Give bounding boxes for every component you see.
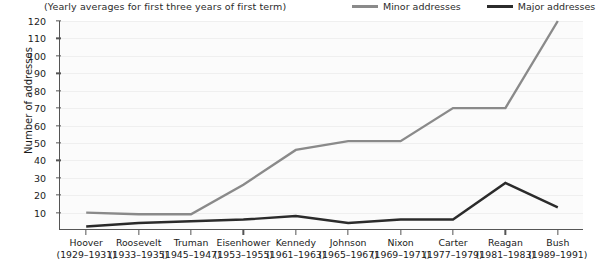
x-tick-mark	[86, 230, 87, 235]
x-tick-mark	[400, 230, 401, 235]
series-layer	[60, 21, 584, 230]
plot-area: 102030405060708090100110120 Hoover(1929–…	[59, 21, 583, 230]
y-tick-label: 110	[18, 33, 46, 44]
x-tick-name: Bush	[546, 237, 569, 248]
y-tick-label: 120	[18, 16, 46, 27]
x-tick-label-bush: Bush(1989–1991)	[515, 237, 600, 260]
x-tick-mark	[348, 230, 349, 235]
y-tick-label: 20	[18, 190, 46, 201]
y-tick-label: 10	[18, 207, 46, 218]
legend-item-minor-addresses[interactable]: Minor addresses	[352, 1, 461, 12]
x-tick-years: (1989–1991)	[515, 249, 600, 261]
legend-swatch-minor-icon	[352, 5, 378, 8]
y-tick-label: 50	[18, 137, 46, 148]
chart-legend: Minor addresses Major addresses	[352, 1, 595, 12]
y-tick-label: 90	[18, 68, 46, 79]
x-tick-mark	[505, 230, 506, 235]
x-tick-mark	[243, 230, 244, 235]
legend-label-major: Major addresses	[518, 1, 596, 12]
chart-subtitle: (Yearly averages for first three years o…	[44, 1, 286, 12]
x-tick-mark	[557, 230, 558, 235]
legend-label-minor: Minor addresses	[383, 1, 461, 12]
legend-item-major-addresses[interactable]: Major addresses	[487, 1, 596, 12]
series-line-major-addresses	[86, 183, 558, 227]
y-tick-label: 100	[18, 50, 46, 61]
x-tick-mark	[452, 230, 453, 235]
y-tick-label: 40	[18, 155, 46, 166]
y-tick-label: 60	[18, 120, 46, 131]
x-tick-mark	[190, 230, 191, 235]
y-tick-label: 80	[18, 85, 46, 96]
y-tick-label: 30	[18, 172, 46, 183]
legend-swatch-major-icon	[487, 5, 513, 8]
series-line-minor-addresses	[86, 21, 558, 214]
x-tick-mark	[138, 230, 139, 235]
x-tick-mark	[295, 230, 296, 235]
y-tick-label: 70	[18, 103, 46, 114]
